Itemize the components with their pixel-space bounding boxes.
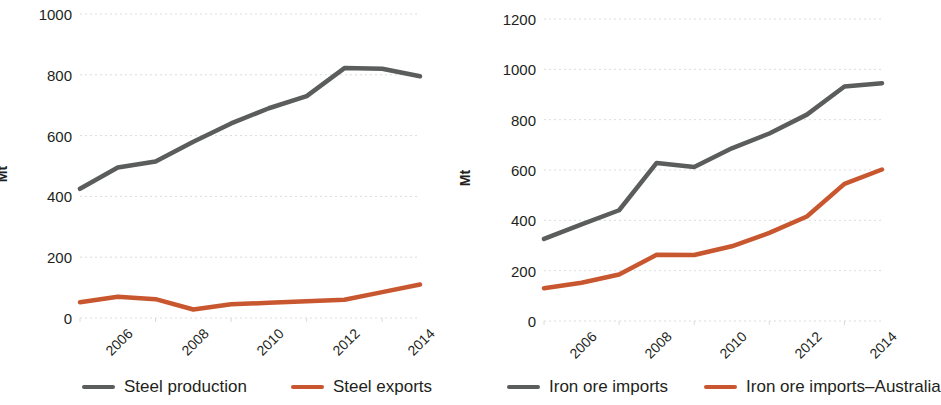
legend-label: Iron ore imports: [549, 378, 668, 395]
y-axis-tick-label: 400: [474, 213, 536, 228]
y-axis-tick-label: 0: [474, 314, 536, 329]
y-axis-title-iron-ore: Mt: [457, 170, 473, 186]
iron-ore-legend: Iron ore importsIron ore imports–Austral…: [507, 378, 941, 395]
y-axis-tick-label: 1000: [10, 7, 72, 22]
legend-label: Steel exports: [333, 378, 432, 395]
y-axis-tick-label: 0: [10, 311, 72, 326]
legend-line-swatch-icon: [704, 385, 737, 389]
legend-label: Steel production: [124, 378, 247, 395]
legend-item[interactable]: Iron ore imports–Australia: [704, 378, 941, 395]
x-axis-tick-label: 2008: [642, 329, 674, 361]
legend-item[interactable]: Steel production: [82, 378, 247, 395]
y-axis-tick-label: 200: [10, 250, 72, 265]
x-axis-tick-label: 2008: [179, 326, 211, 358]
iron-ore-chart-panel: Mt Iron ore importsIron ore imports–Aust…: [463, 0, 925, 405]
series-line: [544, 83, 882, 239]
legend-line-swatch-icon: [82, 385, 115, 389]
y-axis-tick-label: 1000: [474, 62, 536, 77]
y-axis-tick-label: 200: [474, 264, 536, 279]
y-axis-tick-label: 600: [474, 163, 536, 178]
chart-svg: [80, 14, 420, 318]
y-axis-tick-label: 600: [10, 129, 72, 144]
x-axis-tick-label: 2006: [567, 329, 599, 361]
iron-ore-plot-area: [544, 19, 882, 321]
legend-item[interactable]: Iron ore imports: [507, 378, 668, 395]
chart-svg: [544, 19, 882, 321]
legend-item[interactable]: Steel exports: [291, 378, 432, 395]
x-axis-tick-label: 2014: [405, 326, 437, 358]
series-line: [80, 285, 420, 310]
x-axis-tick-label: 2012: [792, 329, 824, 361]
x-axis-tick-label: 2014: [868, 329, 900, 361]
y-axis-tick-label: 400: [10, 189, 72, 204]
legend-line-swatch-icon: [291, 385, 324, 389]
steel-plot-area: [80, 14, 420, 318]
x-axis-tick-label: 2010: [717, 329, 749, 361]
y-axis-tick-label: 800: [10, 68, 72, 83]
x-axis-tick-label: 2010: [254, 326, 286, 358]
legend-line-swatch-icon: [507, 385, 540, 389]
y-axis-title-steel: Mt: [0, 166, 10, 182]
legend-label: Iron ore imports–Australia: [746, 378, 941, 395]
steel-chart-panel: Mt Steel productionSteel exports 0200400…: [0, 0, 463, 405]
x-axis-tick-label: 2012: [330, 326, 362, 358]
series-line: [80, 68, 420, 189]
x-axis-tick-label: 2006: [103, 326, 135, 358]
steel-legend: Steel productionSteel exports: [82, 378, 432, 395]
y-axis-tick-label: 1200: [474, 12, 536, 27]
y-axis-tick-label: 800: [474, 113, 536, 128]
